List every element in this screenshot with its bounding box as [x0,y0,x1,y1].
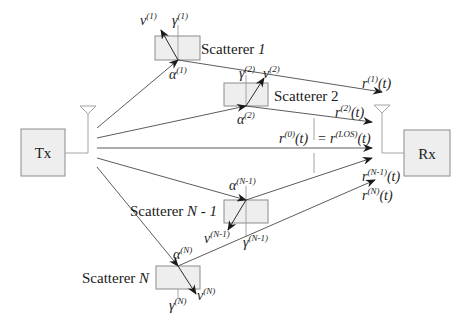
scatterer-1-box [155,36,200,60]
path-tx-scatterer-1 [97,60,178,128]
signal-los-label: r(LOS)(t) [330,129,371,147]
path-scatterer-n-rx [178,180,375,266]
scatterer-2-velocity-label: v(2) [263,64,280,81]
scatterer-n-label: Scatterer N [82,270,150,286]
scatterer-1-alpha-label: α(1) [169,65,187,82]
signal-rn-1-label: r(N-1)(t) [362,167,401,185]
scatterer-1-gamma-label: γ(1) [172,11,188,28]
scatterer-n-1-label: Scatterer N - 1 [130,203,217,219]
scatterer-1-velocity-label: v(1) [140,11,157,28]
scatterer-2-label: Scatterer 2 [274,88,339,104]
scatterer-2-alpha-label: α(2) [237,110,255,127]
signal-r2-label: r(2)(t) [335,103,365,121]
multipath-channel-diagram: Tx Rx Scatterer 1 v(1) γ(1) α(1) r(1)(t)… [0,0,471,334]
tx-feed-line [65,114,88,153]
rx-antenna-icon [374,105,390,113]
tx-block: Tx [21,106,96,176]
los-equals-sign: = [318,131,326,146]
tx-antenna-icon [80,106,96,114]
path-tx-scatterer-2 [97,106,246,138]
scatterer-n-gamma-label: γ(N) [169,296,187,313]
signal-r1-label: r(1)(t) [362,74,392,92]
scatterer-n-box [156,266,200,289]
rx-feed-line [382,113,404,153]
signal-rn-label: r(N)(t) [362,186,393,204]
scatterer-2-gamma-label: γ(2) [239,64,255,81]
path-scatterer-n-1-rx [246,158,372,200]
scatterer-n-velocity-label: v(N) [197,286,215,303]
rx-block: Rx [374,105,450,176]
signal-r0-label: r(0)(t) [279,129,309,147]
scatterer-n-1-velocity-label: v(N-1) [204,229,230,246]
scatterer-n-1-alpha-label: α(N-1) [229,176,256,193]
scatterer-n-alpha-label: α(N) [173,245,192,262]
tx-label: Tx [35,145,52,161]
rx-label: Rx [418,146,436,162]
scatterer-1-label: Scatterer 1 [201,41,266,57]
scatterer-n-1-gamma-label: γ(N-1) [243,233,268,250]
